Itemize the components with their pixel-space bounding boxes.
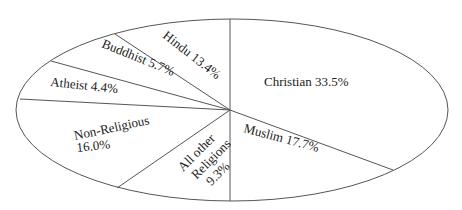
boundary-nonreligious-atheist	[20, 99, 230, 110]
slice-label-christian: Christian 33.5%	[264, 74, 349, 89]
pie-outline	[16, 19, 448, 201]
slice-label-all-other-religions: All other Religions 9.3%	[175, 125, 245, 195]
religion-pie-chart: Christian 33.5% Muslim 17.7% All other R…	[0, 0, 462, 210]
slice-label-atheist: Atheist 4.4%	[50, 74, 119, 96]
slice-label-non-religious: Non-Religious 16.0%	[73, 112, 151, 155]
label-line-2: 16.0%	[76, 137, 111, 155]
slice-label-muslim: Muslim 17.7%	[242, 120, 321, 155]
